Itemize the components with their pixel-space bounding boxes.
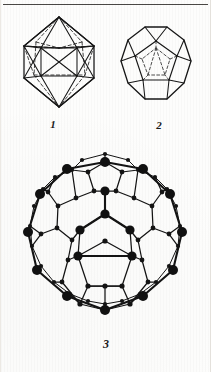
figure-3-caption: 3 <box>93 338 119 350</box>
figure-dodecahedron <box>118 24 194 110</box>
dodecahedron-drawing <box>118 24 194 110</box>
figure-2-caption: 2 <box>147 120 171 131</box>
page-top-rule <box>3 4 208 5</box>
figure-plate-page: 1 <box>0 0 211 372</box>
figure-icosahedron <box>19 12 99 112</box>
figure-1-caption: 1 <box>41 119 65 130</box>
dodecahedron-silhouette <box>121 27 191 99</box>
icosahedron-drawing <box>19 12 99 112</box>
figure-fullerene <box>10 144 200 334</box>
fullerene-drawing <box>10 144 200 334</box>
